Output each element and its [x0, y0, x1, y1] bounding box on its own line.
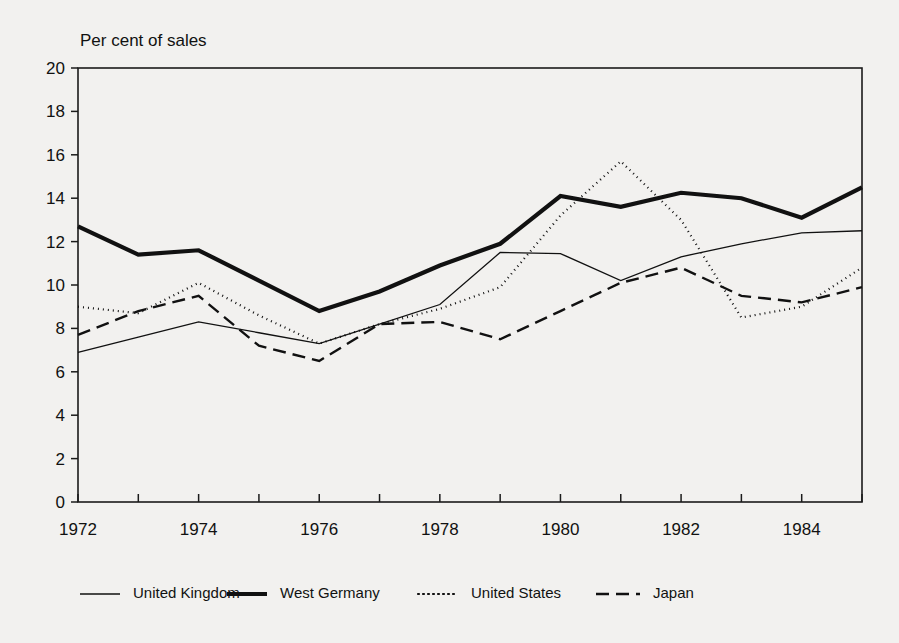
x-tick-labels: 1972197419761978198019821984 [59, 520, 821, 539]
y-tick-label: 20 [46, 59, 65, 78]
series-lines [78, 161, 862, 361]
chart-figure: Per cent of sales 02468101214161820 1972… [0, 0, 899, 643]
y-tick-label: 4 [56, 406, 65, 425]
x-tick-label: 1974 [180, 520, 218, 539]
x-tick-label: 1980 [542, 520, 580, 539]
y-tick-label: 12 [46, 233, 65, 252]
legend-label-united-kingdom: United Kingdom [133, 584, 240, 601]
y-tick-label: 14 [46, 189, 65, 208]
y-tick-label: 0 [56, 493, 65, 512]
x-tick-label: 1978 [421, 520, 459, 539]
y-tick-labels: 02468101214161820 [46, 59, 65, 512]
series-line-west-germany [78, 187, 862, 311]
y-tick-label: 2 [56, 450, 65, 469]
line-chart: Per cent of sales 02468101214161820 1972… [0, 0, 899, 643]
x-tick-label: 1984 [783, 520, 821, 539]
y-tick-label: 6 [56, 363, 65, 382]
legend-label-japan: Japan [653, 584, 694, 601]
y-tick-label: 18 [46, 102, 65, 121]
x-tick-label: 1982 [662, 520, 700, 539]
plot-frame [78, 68, 862, 502]
x-tick-marks [78, 494, 862, 502]
series-line-japan [78, 268, 862, 361]
y-tick-label: 8 [56, 319, 65, 338]
chart-legend: United KingdomWest GermanyUnited StatesJ… [80, 584, 694, 601]
y-tick-marks [71, 68, 78, 502]
x-tick-label: 1972 [59, 520, 97, 539]
legend-label-west-germany: West Germany [280, 584, 380, 601]
y-tick-label: 10 [46, 276, 65, 295]
y-tick-label: 16 [46, 146, 65, 165]
legend-label-united-states: United States [471, 584, 561, 601]
x-tick-label: 1976 [300, 520, 338, 539]
y-axis-title: Per cent of sales [80, 31, 207, 50]
